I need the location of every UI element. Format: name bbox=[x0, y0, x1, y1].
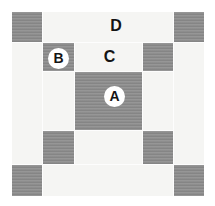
quilt-block: D B C A bbox=[12, 12, 204, 196]
patch-inner-corner-top-left: B bbox=[43, 43, 74, 71]
patch-inner-corner-top-right bbox=[143, 43, 173, 71]
label-d: D bbox=[110, 18, 122, 34]
patch-center-square: A bbox=[75, 72, 142, 130]
patch-strip-left bbox=[12, 43, 42, 164]
label-a: A bbox=[104, 86, 125, 107]
patch-inner-strip-top: C bbox=[75, 43, 142, 71]
patch-inner-strip-left bbox=[43, 72, 74, 130]
patch-corner-top-right bbox=[174, 12, 204, 42]
patch-inner-corner-bottom-right bbox=[143, 131, 173, 164]
patch-corner-bottom-right bbox=[174, 165, 204, 196]
patch-corner-top-left bbox=[12, 12, 42, 42]
patch-corner-bottom-left bbox=[12, 165, 42, 196]
label-b: B bbox=[48, 48, 69, 69]
patch-strip-right bbox=[174, 43, 204, 164]
patch-inner-corner-bottom-left bbox=[43, 131, 74, 164]
patch-inner-strip-right bbox=[143, 72, 173, 130]
patch-strip-top: D bbox=[43, 12, 173, 42]
patch-strip-bottom bbox=[43, 165, 173, 196]
label-c: C bbox=[104, 49, 116, 65]
quilt-block-diagram: D B C A bbox=[0, 0, 215, 206]
patch-inner-strip-bottom bbox=[75, 131, 142, 164]
